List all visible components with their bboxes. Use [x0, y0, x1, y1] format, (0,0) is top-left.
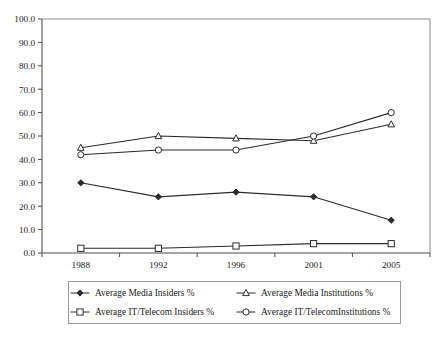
data-point-marker [78, 245, 84, 251]
data-series [78, 180, 395, 224]
data-point-marker [311, 133, 317, 139]
data-point-marker [311, 194, 317, 200]
legend-label: Average Media Institutions % [261, 288, 373, 298]
legend-label: Average IT/TelecomInstitutions % [261, 307, 391, 317]
data-series [78, 241, 395, 252]
y-tick-label: 50.0 [19, 131, 35, 141]
y-tick-label: 0.0 [24, 248, 36, 258]
y-tick-label: 80.0 [19, 61, 35, 71]
x-tick-label: 2005 [382, 260, 401, 270]
y-tick-label: 60.0 [19, 108, 35, 118]
data-series [78, 121, 395, 151]
data-point-marker [388, 217, 394, 223]
x-tick-label: 2001 [304, 260, 323, 270]
data-point-marker [388, 241, 394, 247]
data-point-marker [311, 241, 317, 247]
data-point-marker [78, 180, 84, 186]
legend-marker [243, 309, 249, 315]
y-tick-label: 40.0 [19, 155, 35, 165]
legend-marker [77, 309, 83, 315]
data-point-marker [233, 147, 239, 153]
x-tick-label: 1988 [72, 260, 91, 270]
line-chart: 0.010.020.030.040.050.060.070.080.090.01… [0, 0, 447, 337]
x-tick-label: 1996 [227, 260, 246, 270]
data-point-marker [155, 245, 161, 251]
y-tick-label: 10.0 [19, 225, 35, 235]
data-point-marker [388, 110, 394, 116]
data-point-marker [78, 152, 84, 158]
data-point-marker [233, 243, 239, 249]
series-group [78, 110, 395, 252]
chart-page: 0.010.020.030.040.050.060.070.080.090.01… [0, 0, 447, 337]
y-axis-ticks: 0.010.020.030.040.050.060.070.080.090.01… [14, 14, 42, 258]
legend-label: Average Media Insiders % [95, 288, 195, 298]
data-point-marker [155, 194, 161, 200]
y-tick-label: 20.0 [19, 202, 35, 212]
y-tick-label: 70.0 [19, 85, 35, 95]
data-point-marker [233, 189, 239, 195]
y-tick-label: 90.0 [19, 38, 35, 48]
x-axis-ticks: 19881992199620012005 [42, 253, 430, 270]
y-tick-label: 100.0 [14, 14, 35, 24]
chart-legend: Average Media Insiders %Average Media In… [69, 282, 401, 324]
legend-label: Average IT/Telecom Insiders % [95, 307, 214, 317]
data-point-marker [155, 147, 161, 153]
x-tick-label: 1992 [149, 260, 168, 270]
data-point-marker [388, 121, 395, 127]
y-tick-label: 30.0 [19, 178, 35, 188]
